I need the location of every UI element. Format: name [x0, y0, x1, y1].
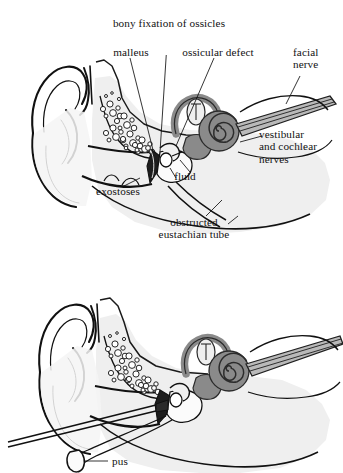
label-fluid-text: fluid	[174, 170, 196, 182]
ear-anatomy-figure: bony fixation of ossicles malleus ossicu…	[0, 0, 343, 473]
lower-panel-graphics	[8, 298, 343, 473]
label-exostoses-text: exostoses	[96, 185, 140, 197]
label-fluid: fluid	[163, 170, 207, 182]
label-malleus: malleus	[95, 46, 167, 58]
label-facial-nerve: facial nerve	[293, 46, 318, 71]
label-vestibular-and-cochlear-nerves: vestibular and cochlear nerves	[259, 128, 317, 165]
cochlea	[199, 111, 239, 151]
label-bony-fixation-text: bony fixation of ossicles	[113, 17, 225, 29]
label-vestibular-line3: nerves	[259, 153, 317, 165]
label-facial-nerve-line1: facial	[293, 46, 318, 58]
label-pus-text: pus	[112, 455, 128, 467]
label-eustachian-line1: obstructed	[136, 216, 252, 228]
label-eustachian-line2: eustachian tube	[136, 228, 252, 240]
label-ossicular-defect-text: ossicular defect	[182, 46, 254, 58]
label-facial-nerve-line2: nerve	[293, 58, 318, 70]
label-ossicular-defect: ossicular defect	[172, 46, 264, 58]
label-pus: pus	[112, 455, 128, 467]
label-bony-fixation-of-ossicles: bony fixation of ossicles	[84, 17, 254, 29]
label-exostoses: exostoses	[78, 185, 158, 197]
label-vestibular-line2: and cochlear	[259, 140, 317, 152]
label-malleus-text: malleus	[113, 46, 149, 58]
label-vestibular-line1: vestibular	[259, 128, 317, 140]
label-obstructed-eustachian-tube: obstructed eustachian tube	[136, 216, 252, 241]
